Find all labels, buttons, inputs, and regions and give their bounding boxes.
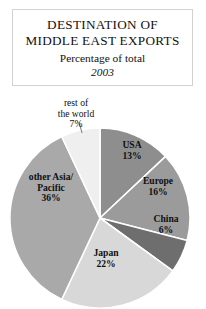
pie-label-europe-name: Europe (130, 176, 186, 187)
title-year: 2003 (13, 65, 192, 79)
pie-label-japan-value: 22% (78, 259, 134, 270)
pie-label-usa-name: USA (108, 140, 156, 151)
pie-label-rest-of-world-line1: rest of (34, 98, 118, 109)
pie-label-rest-of-world: rest of the world 7% (34, 98, 118, 130)
pie-label-other-asia-pacific: other Asia/ Pacific 36% (8, 172, 94, 204)
pie-chart-figure: DESTINATION OF MIDDLE EAST EXPORTS Perce… (0, 0, 206, 309)
pie-label-europe-value: 16% (130, 187, 186, 198)
pie-label-other-asia-pacific-line1: other Asia/ (8, 172, 94, 183)
pie-label-rest-of-world-value: 7% (34, 119, 118, 130)
title-card: DESTINATION OF MIDDLE EAST EXPORTS Perce… (12, 9, 193, 86)
pie-label-japan-name: Japan (78, 248, 134, 259)
pie-chart: rest of the world 7% USA 13% Europe 16% … (0, 88, 206, 309)
pie-label-usa-value: 13% (108, 151, 156, 162)
pie-label-japan: Japan 22% (78, 248, 134, 269)
title-line-1: DESTINATION OF (13, 17, 192, 33)
pie-label-other-asia-pacific-value: 36% (8, 193, 94, 204)
pie-label-china-value: 6% (140, 225, 192, 236)
title-subtitle: Percentage of total (13, 51, 192, 65)
title-line-2: MIDDLE EAST EXPORTS (13, 33, 192, 49)
pie-label-china-name: China (140, 214, 192, 225)
pie-label-europe: Europe 16% (130, 176, 186, 197)
pie-label-usa: USA 13% (108, 140, 156, 161)
pie-label-china: China 6% (140, 214, 192, 235)
